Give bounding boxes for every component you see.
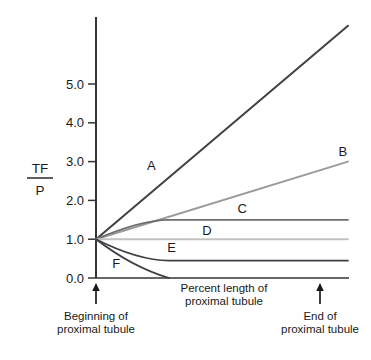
- y-tick-label: 2.0: [66, 193, 84, 208]
- y-tick-label: 4.0: [66, 115, 84, 130]
- y-tick-label: 3.0: [66, 154, 84, 169]
- end-label-line2: proximal tubule: [281, 323, 359, 335]
- curve-label-f: F: [112, 256, 120, 271]
- curve-label-b: B: [339, 144, 348, 159]
- curve-label-e: E: [167, 240, 176, 255]
- y-tick-label: 1.0: [66, 232, 84, 247]
- y-axis-title-numerator: TF: [32, 161, 49, 176]
- beginning-label-line1: Beginning of: [64, 310, 129, 322]
- y-tick-label: 0.0: [66, 271, 84, 286]
- x-axis-title-line1: Percent length of: [181, 282, 269, 294]
- tfp-proximal-tubule-chart: 0.01.02.03.04.05.0 TF P ABCDEF Beginning…: [0, 0, 371, 360]
- x-axis-title-line2: proximal tubule: [185, 295, 263, 307]
- beginning-label-line2: proximal tubule: [57, 323, 135, 335]
- chart-figure: 0.01.02.03.04.05.0 TF P ABCDEF Beginning…: [0, 0, 371, 360]
- curve-label-c: C: [237, 201, 246, 216]
- y-tick-label: 5.0: [66, 77, 84, 92]
- curve-label-d: D: [202, 223, 211, 238]
- curve-label-a: A: [147, 158, 156, 173]
- x-axis-title: Percent length of proximal tubule: [181, 282, 269, 307]
- end-label-line1: End of: [303, 310, 337, 322]
- y-axis-title-denominator: P: [35, 183, 44, 198]
